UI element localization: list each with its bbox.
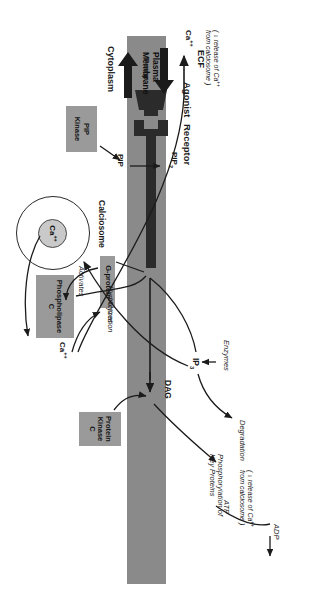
label-receptor: Receptor (181, 124, 192, 165)
label-cytoplasmic-calcium: Ca++ (57, 342, 66, 359)
label-ip3: IP3 (190, 358, 200, 369)
label-enzymes: Enzymes (222, 340, 230, 371)
pip-kinase-box: PIP Kinase (66, 106, 97, 152)
label-pip2: PIP2 (169, 152, 178, 168)
protein-kinase-c-line1: Protein (104, 416, 112, 442)
protein-kinase-c-line2: Kinase (96, 417, 104, 442)
protein-kinase-c-box: Protein Kinase C (79, 412, 121, 446)
label-pump: Pump (141, 58, 150, 80)
calciosome-calcium-store: Ca++ (38, 219, 67, 248)
phospholipase-c-line2: C (47, 304, 55, 309)
label-agonist: Agonist (181, 82, 192, 117)
label-cytoplasm: Cytoplasm (106, 46, 116, 92)
label-activation: Activation (106, 300, 114, 333)
label-calcium-efflux: Ca++ (183, 30, 192, 47)
label-pip: PIP (115, 154, 124, 167)
degradation-note-line1: ( ↓ release of Ca++ (246, 470, 254, 527)
label-activates: Activates (77, 266, 85, 296)
protein-kinase-c-line3: C (88, 426, 96, 431)
degradation-note-line2: from calciosome ) (238, 470, 246, 527)
label-adp: ADP (272, 524, 280, 539)
phospholipase-c-box: Phospholipase C (36, 275, 74, 338)
pip-kinase-line1: PIP (82, 123, 90, 135)
efflux-note-line1: ( ↓ release of Ca++ (212, 30, 220, 87)
phosphorylation-line2: Key Proteins (207, 454, 215, 516)
calcium-activation-arrow (72, 312, 100, 352)
label-dag: DAG (162, 380, 172, 399)
phospholipase-c-line1: Phospholipase (55, 280, 63, 333)
label-calciosome: Calciosome (96, 200, 106, 248)
label-degradation: Degradation (238, 420, 246, 461)
plasma-membrane-slab (127, 36, 166, 584)
label-degradation-note: ( ↓ release of Ca++ from calciosome ) (238, 470, 254, 527)
plasma-membrane-line1: Plasma (150, 52, 160, 95)
efflux-note-line2: from calciosome ) (204, 30, 212, 87)
diagram-stage: PIP Kinase G-protein Phospholipase C Pro… (0, 0, 328, 608)
label-calcium-efflux-note: ( ↓ release of Ca++ from calciosome ) (204, 30, 220, 87)
ip3-degradation-arrow (198, 374, 232, 418)
pip-kinase-line2: Kinase (73, 117, 81, 142)
figure-canvas: PIP Kinase G-protein Phospholipase C Pro… (0, 0, 328, 608)
label-atp: ATP (222, 500, 230, 514)
calciosome-ion-label: Ca++ (48, 225, 57, 242)
